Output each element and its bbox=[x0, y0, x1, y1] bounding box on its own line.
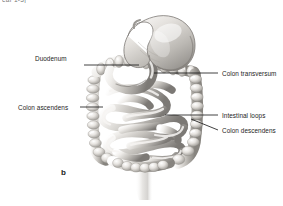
stomach-shape bbox=[124, 16, 195, 71]
anatomical-figure: ear 1-3] bbox=[0, 0, 283, 206]
label-duodenum: Duodenum bbox=[35, 55, 67, 62]
label-colon-transversum: Colon transversum bbox=[222, 70, 276, 77]
label-intestinal-loops: Intestinal loops bbox=[222, 112, 265, 119]
label-colon-ascendens: Colon ascendens bbox=[18, 104, 68, 111]
label-colon-descendens: Colon descendens bbox=[222, 127, 276, 134]
panel-letter-b: b bbox=[61, 168, 66, 177]
